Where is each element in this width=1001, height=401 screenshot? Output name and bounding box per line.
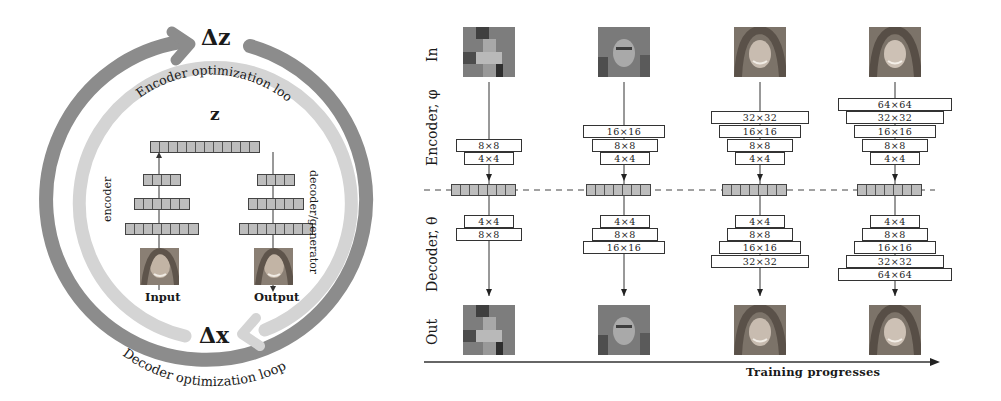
latent-vector-stage-3 [722, 184, 787, 196]
axis-arrowhead-icon [930, 358, 940, 366]
decoder-layer: 4×4 [735, 215, 785, 228]
decoder-layer: 8×8 [592, 228, 658, 241]
encoder-layer: 8×8 [456, 139, 522, 152]
latent-vector-stage-1 [451, 184, 516, 196]
encoder-layer: 16×16 [854, 125, 936, 138]
decoder-layer: 4×4 [870, 215, 920, 228]
out-image-stage-1 [463, 305, 515, 355]
encoder-layer: 8×8 [727, 139, 793, 152]
encoder-layer: 64×64 [838, 98, 952, 111]
decoder-layer: 8×8 [456, 228, 522, 241]
training-axis-label: Training progresses [746, 365, 880, 379]
decoder-layer: 32×32 [711, 255, 809, 268]
decoder-layer: 4×4 [464, 215, 514, 228]
encoder-layer: 4×4 [464, 152, 514, 165]
decoder-layer: 8×8 [727, 228, 793, 241]
encoder-layer: 16×16 [583, 125, 665, 138]
decoder-layer: 16×16 [854, 241, 936, 254]
decoder-layer: 4×4 [600, 215, 650, 228]
in-image-stage-2 [598, 27, 650, 77]
encoder-layer: 32×32 [846, 111, 944, 124]
out-image-stage-2 [598, 305, 650, 355]
decoder-layer: 8×8 [862, 228, 928, 241]
encoder-layer: 16×16 [719, 125, 801, 138]
encoder-layer: 8×8 [592, 139, 658, 152]
decoder-layer: 32×32 [846, 255, 944, 268]
out-image-stage-3 [734, 305, 786, 355]
in-image-stage-3 [734, 27, 786, 77]
encoder-layer: 4×4 [600, 152, 650, 165]
encoder-layer: 32×32 [711, 111, 809, 124]
decoder-layer: 16×16 [583, 241, 665, 254]
in-image-stage-4 [869, 27, 921, 77]
decoder-layer: 64×64 [838, 268, 952, 281]
encoder-layer: 4×4 [735, 152, 785, 165]
encoder-layer: 8×8 [862, 139, 928, 152]
encoder-layer: 4×4 [870, 152, 920, 165]
decoder-layer: 16×16 [719, 241, 801, 254]
out-image-stage-4 [869, 305, 921, 355]
latent-vector-stage-2 [586, 184, 651, 196]
in-image-stage-1 [463, 27, 515, 77]
latent-vector-stage-4 [857, 184, 922, 196]
